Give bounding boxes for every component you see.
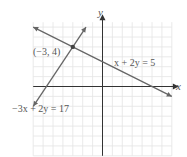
- y-axis-label: y: [97, 6, 103, 18]
- x-axis-label: x: [175, 80, 181, 92]
- coordinate-plane: x y (−3, 4) x + 2y = 5 −3x + 2y = 17: [0, 0, 187, 157]
- point-label: (−3, 4): [33, 46, 60, 58]
- line1-label: x + 2y = 5: [114, 57, 155, 68]
- intersection-point: [71, 45, 75, 49]
- axes: [33, 14, 179, 156]
- line2-label: −3x + 2y = 17: [12, 103, 69, 114]
